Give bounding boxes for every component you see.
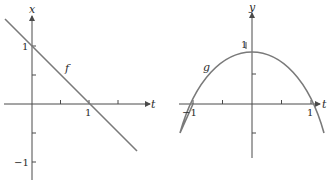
t-one-label: 1: [307, 107, 313, 118]
g-label: g: [203, 61, 210, 74]
curve-f: [5, 19, 137, 151]
right-graph: y t g −1 1 1: [179, 1, 327, 158]
t-axis-label: t: [151, 98, 156, 111]
y-axis-label: y: [248, 1, 256, 14]
x-neg-one-label: −1: [14, 157, 29, 168]
x-one-label: 1: [22, 41, 28, 52]
t-one-label: 1: [85, 107, 91, 118]
t-neg-one-label: −1: [182, 107, 197, 118]
left-graph: x t f 1 1 −1: [4, 3, 156, 180]
x-axis-label: x: [29, 3, 36, 16]
t-axis-label: t: [322, 98, 327, 111]
f-label: f: [64, 62, 71, 75]
figure: x t f 1 1 −1 y t g −1 1 1: [0, 0, 329, 185]
y-one-label: 1: [241, 39, 247, 50]
